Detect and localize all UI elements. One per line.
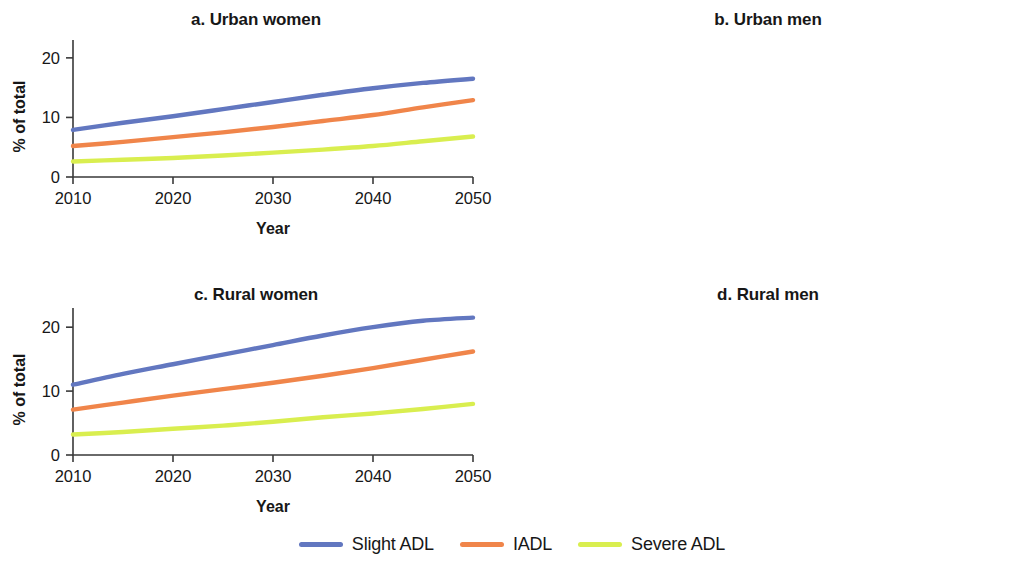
panel-a: a. Urban women 0102020102020203020402050… — [0, 0, 512, 275]
y-tick-label: 20 — [42, 318, 60, 336]
panel-b: b. Urban men 0102020102020203020402050Ye… — [512, 0, 1024, 275]
panel-plot-d: 0102020102020203020402050Year% of total — [512, 275, 1024, 518]
y-tick-label: 0 — [51, 446, 60, 464]
panel-d: d. Rural men 0102020102020203020402050Ye… — [512, 275, 1024, 518]
figure-root: a. Urban women 0102020102020203020402050… — [0, 0, 1024, 561]
legend-item-severe-adl: Severe ADL — [578, 534, 725, 555]
x-tick-label: 2040 — [355, 467, 392, 485]
x-tick-label: 2020 — [155, 467, 192, 485]
y-tick-label: 20 — [42, 49, 60, 67]
series-line-severe-adl — [73, 404, 473, 435]
legend-item-iadl: IADL — [460, 534, 552, 555]
panel-plot-b: 0102020102020203020402050Year% of total — [512, 0, 1024, 275]
panel-grid: a. Urban women 0102020102020203020402050… — [0, 0, 1024, 518]
panel-plot-c: 0102020102020203020402050Year% of total — [0, 275, 512, 518]
legend-label: Severe ADL — [631, 534, 725, 555]
series-line-slight-adl — [73, 318, 473, 385]
x-tick-label: 2050 — [455, 189, 492, 207]
x-axis-label: Year — [256, 498, 290, 515]
x-tick-label: 2030 — [255, 189, 292, 207]
legend-swatch-icon — [460, 542, 504, 547]
x-tick-label: 2040 — [355, 189, 392, 207]
legend-label: IADL — [513, 534, 552, 555]
legend-swatch-icon — [578, 542, 622, 547]
x-tick-label: 2020 — [155, 189, 192, 207]
x-tick-label: 2050 — [455, 467, 492, 485]
x-tick-label: 2010 — [55, 467, 92, 485]
legend-item-slight-adl: Slight ADL — [299, 534, 434, 555]
series-line-iadl — [73, 351, 473, 409]
y-tick-label: 10 — [42, 382, 60, 400]
panel-c: c. Rural women 0102020102020203020402050… — [0, 275, 512, 518]
x-axis-label: Year — [256, 220, 290, 237]
x-tick-label: 2030 — [255, 467, 292, 485]
legend-swatch-icon — [299, 542, 343, 547]
x-tick-label: 2010 — [55, 189, 92, 207]
panel-plot-a: 0102020102020203020402050Year% of total — [0, 0, 512, 275]
y-axis-label: % of total — [11, 81, 28, 153]
series-line-slight-adl — [73, 79, 473, 130]
chart-legend: Slight ADL IADL Severe ADL — [0, 534, 1024, 555]
y-axis-label: % of total — [11, 354, 28, 426]
y-tick-label: 0 — [51, 168, 60, 186]
y-tick-label: 10 — [42, 108, 60, 126]
legend-label: Slight ADL — [352, 534, 434, 555]
